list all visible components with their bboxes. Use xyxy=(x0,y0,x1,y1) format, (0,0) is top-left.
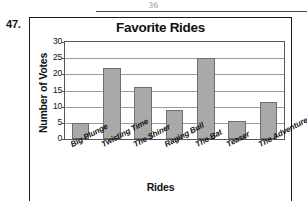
y-axis-tick-label: 10 xyxy=(46,101,62,111)
y-axis-tick-mark xyxy=(62,123,65,124)
y-axis-tick-label: 20 xyxy=(46,68,62,78)
gridline xyxy=(65,107,284,108)
chart-title: Favorite Rides xyxy=(29,20,292,35)
y-axis-tick-label: 15 xyxy=(46,85,62,95)
y-axis-tick-mark xyxy=(62,91,65,92)
y-axis-tick-mark xyxy=(62,139,65,140)
page-number: 36 xyxy=(0,0,307,10)
gridline xyxy=(65,74,284,75)
problem-number: 47. xyxy=(6,18,21,30)
y-axis-tick-mark xyxy=(62,58,65,59)
y-axis-tick-label: 30 xyxy=(46,36,62,46)
page-header-rule xyxy=(96,11,307,12)
y-axis-tick-mark xyxy=(62,42,65,43)
gridline xyxy=(65,91,284,92)
gridline xyxy=(65,58,284,59)
x-axis-title: Rides xyxy=(29,181,292,193)
y-axis-tick-label: 5 xyxy=(46,117,62,127)
y-axis-tick-mark xyxy=(62,74,65,75)
y-axis-tick-label: 25 xyxy=(46,52,62,62)
y-axis-tick-mark xyxy=(62,107,65,108)
y-axis-tick-labels: 051015202530 xyxy=(44,41,62,140)
y-axis-tick-label: 0 xyxy=(46,133,62,143)
x-axis-tick-labels: Big PlungeTwisting TimeThe ShinerRaging … xyxy=(64,141,285,185)
